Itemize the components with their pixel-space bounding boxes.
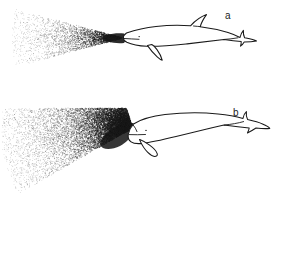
- dolphin-a-body: [123, 15, 256, 47]
- panel-b: b: [2, 107, 270, 193]
- dolphin-with-dorsal-fin: [123, 15, 256, 61]
- dolphin-b-eye: [145, 130, 147, 131]
- figure-root: a b: [0, 0, 283, 256]
- panel-a: a: [12, 9, 257, 65]
- dolphin-without-dorsal-fin: [128, 112, 270, 157]
- narrow-sound-beam: [12, 9, 126, 65]
- dolphin-a-dorsal-fin-detail: [194, 26, 201, 27]
- wide-sound-beam: [2, 107, 135, 192]
- illustration-canvas: a b: [0, 0, 283, 256]
- dolphin-a-eye: [138, 36, 140, 37]
- dolphin-b-body: [128, 112, 270, 144]
- panel-label-b: b: [233, 107, 239, 118]
- dolphin-a-pectoral-fin: [148, 45, 163, 61]
- panel-label-a: a: [225, 10, 231, 21]
